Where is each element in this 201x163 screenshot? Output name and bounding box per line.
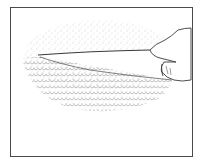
illustration [0, 0, 201, 163]
